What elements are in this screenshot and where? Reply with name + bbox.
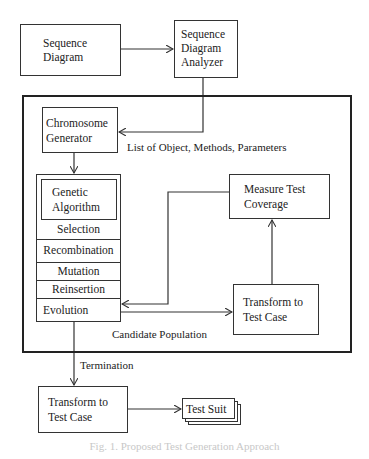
node-label: Sequence (181, 27, 225, 41)
node-label: Sequence (43, 36, 87, 50)
node-label: Test Suit (186, 402, 226, 416)
transform-to-test-case-inner-node: Transform to Test Case (233, 284, 319, 335)
node-label: Diagram (43, 50, 83, 64)
test-suit-node: Test Suit (182, 398, 235, 419)
node-label: Analyzer (181, 55, 223, 69)
node-label: Algorithm (52, 200, 100, 214)
edge-label-termination: Termination (80, 359, 134, 372)
sequence-diagram-analyzer-node: Sequence Diagram Analyzer (174, 20, 238, 78)
ga-step-recombination: Recombination (37, 239, 120, 262)
node-label: Transform to (48, 395, 108, 409)
node-label: Transform to (243, 295, 303, 309)
node-label: Test Case (48, 410, 92, 424)
ga-step-mutation: Mutation (37, 262, 120, 281)
node-label: Diagram (181, 41, 221, 55)
node-label: Test Case (243, 310, 287, 324)
node-label: Generator (46, 131, 92, 145)
genetic-algorithm-stack: Genetic Algorithm Selection Recombinatio… (36, 174, 121, 322)
genetic-algorithm-node: Genetic Algorithm (41, 179, 117, 220)
measure-test-coverage-node: Measure Test Coverage (229, 174, 330, 219)
transform-to-test-case-outer-node: Transform to Test Case (38, 386, 128, 433)
edge-label-candidate-population: Candidate Population (112, 328, 207, 341)
node-label: Measure Test (244, 182, 305, 196)
chromosome-generator-node: Chromosome Generator (42, 107, 118, 153)
node-label: Chromosome (46, 116, 108, 130)
node-label: Genetic (52, 185, 88, 199)
ga-step-evolution: Evolution (37, 298, 120, 323)
ga-step-selection: Selection (37, 221, 120, 238)
node-label: Coverage (244, 197, 288, 211)
sequence-diagram-node: Sequence Diagram (20, 24, 121, 76)
edge-label-list: List of Object, Methods, Parameters (127, 141, 286, 154)
ga-step-reinsertion: Reinsertion (37, 280, 120, 299)
figure-caption: Fig. 1. Proposed Test Generation Approac… (0, 440, 369, 452)
